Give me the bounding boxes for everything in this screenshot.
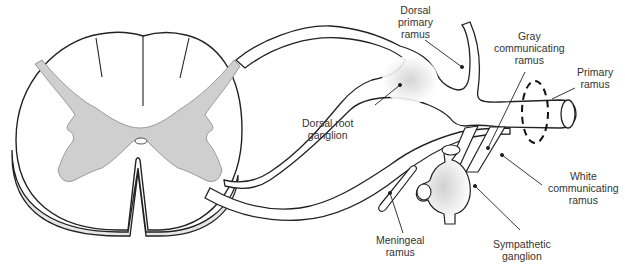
label-dorsal-root-ganglion: Dorsal root ganglion (302, 117, 353, 141)
label-line: White (548, 170, 619, 182)
label-sympathetic-ganglion: Sympathetic ganglion (493, 238, 551, 262)
central-canal (135, 138, 147, 144)
label-line: Gray (494, 30, 565, 42)
label-line: ramus (548, 194, 619, 206)
label-line: Sympathetic (493, 238, 551, 250)
label-line: ramus (577, 78, 613, 90)
spinal-cord (12, 32, 242, 236)
label-white-communicating-ramus: White communicating ramus (548, 170, 619, 206)
dorsal-root-ganglion-body (382, 56, 438, 104)
label-line: ramus (398, 28, 433, 40)
label-primary-ramus: Primary ramus (577, 66, 613, 90)
label-line: communicating (548, 182, 619, 194)
label-gray-communicating-ramus: Gray communicating ramus (494, 30, 565, 66)
label-line: primary (398, 16, 433, 28)
label-line: ramus (376, 246, 424, 258)
label-line: Meningeal (376, 234, 424, 246)
label-line: ramus (494, 54, 565, 66)
label-dorsal-primary-ramus: Dorsal primary ramus (398, 4, 433, 40)
label-line: Dorsal root (302, 117, 353, 129)
label-meningeal-ramus: Meningeal ramus (376, 234, 424, 258)
label-line: ganglion (302, 129, 353, 141)
label-line: Primary (577, 66, 613, 78)
label-line: ganglion (493, 250, 551, 262)
label-line: Dorsal (398, 4, 433, 16)
label-line: communicating (494, 42, 565, 54)
